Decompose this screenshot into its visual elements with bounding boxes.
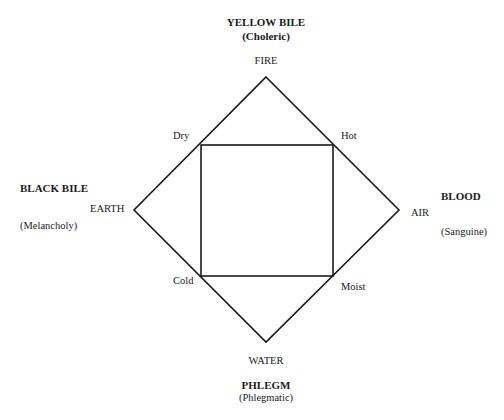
element-earth: EARTH (90, 204, 124, 215)
elements-diamond (134, 77, 399, 342)
element-water: WATER (249, 356, 284, 367)
quality-cold: Cold (173, 276, 193, 287)
quality-dry: Dry (173, 131, 189, 142)
quality-hot: Hot (341, 131, 357, 142)
temperament-melancholy: (Melancholy) (20, 221, 77, 232)
element-fire: FIRE (255, 56, 278, 67)
humour-yellow-bile: YELLOW BILE (227, 17, 305, 28)
quality-moist: Moist (341, 282, 366, 293)
qualities-square (201, 145, 333, 276)
temperament-sanguine: (Sanguine) (441, 227, 487, 238)
temperament-choleric: (Choleric) (242, 31, 290, 42)
humour-phlegm: PHLEGM (242, 380, 291, 391)
humour-black-bile: BLACK BILE (20, 183, 88, 194)
element-air: AIR (411, 208, 429, 219)
temperament-phlegmatic: (Phlegmatic) (239, 393, 293, 404)
humour-blood: BLOOD (441, 191, 481, 202)
